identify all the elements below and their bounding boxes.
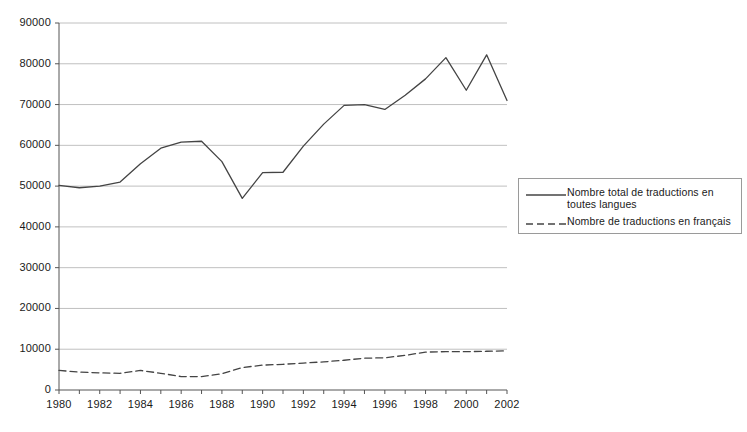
y-axis-tick-label: 20000 [0, 301, 51, 313]
x-axis-tick-label: 1980 [37, 398, 81, 410]
y-axis-tick-label: 70000 [0, 98, 51, 110]
x-axis-ticks [59, 390, 507, 394]
series-line-1 [59, 351, 507, 377]
legend-swatch-solid-icon [525, 187, 567, 199]
chart-container: 0100002000030000400005000060000700008000… [0, 0, 747, 432]
series-lines [59, 55, 507, 377]
y-axis-tick-label: 10000 [0, 342, 51, 354]
gridlines [59, 23, 507, 349]
chart-legend: Nombre total de traductions en toutes la… [518, 178, 742, 234]
y-axis-tick-label: 80000 [0, 57, 51, 69]
x-axis-tick-label: 2002 [485, 398, 529, 410]
x-axis-tick-label: 1994 [322, 398, 366, 410]
y-axis-tick-label: 60000 [0, 138, 51, 150]
legend-label-total: Nombre total de traductions en toutes la… [567, 186, 735, 210]
x-axis-tick-label: 1990 [241, 398, 285, 410]
y-axis-tick-label: 90000 [0, 16, 51, 28]
legend-entry-french: Nombre de traductions en français [525, 215, 731, 228]
y-axis-tick-label: 0 [0, 383, 51, 395]
y-axis-tick-label: 50000 [0, 179, 51, 191]
legend-entry-total: Nombre total de traductions en toutes la… [525, 186, 735, 210]
x-axis-tick-label: 1992 [281, 398, 325, 410]
legend-label-french: Nombre de traductions en français [567, 215, 731, 227]
x-axis-tick-label: 1996 [363, 398, 407, 410]
series-line-0 [59, 55, 507, 199]
y-axis-tick-label: 30000 [0, 261, 51, 273]
x-axis-tick-label: 1988 [200, 398, 244, 410]
x-axis-tick-label: 1986 [159, 398, 203, 410]
x-axis-tick-label: 2000 [444, 398, 488, 410]
y-axis-ticks [55, 23, 59, 390]
axes [59, 23, 507, 390]
x-axis-tick-label: 1982 [78, 398, 122, 410]
y-axis-tick-label: 40000 [0, 220, 51, 232]
x-axis-tick-label: 1984 [118, 398, 162, 410]
x-axis-tick-label: 1998 [404, 398, 448, 410]
legend-swatch-dashed-icon [525, 216, 567, 228]
